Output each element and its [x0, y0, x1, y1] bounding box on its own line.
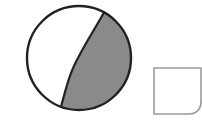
rounded-corner-square: [154, 68, 201, 114]
diagram-canvas: [0, 0, 202, 124]
